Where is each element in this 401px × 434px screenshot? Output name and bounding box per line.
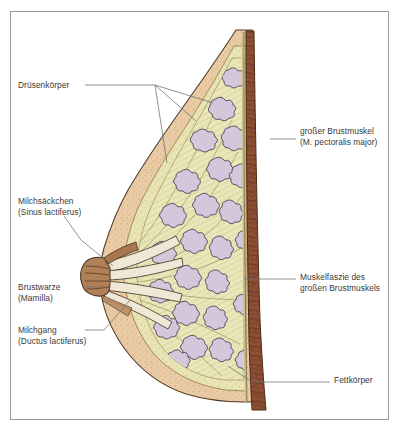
figure-page: Drüsenkörper Milchsäckchen (Sinus lactif… — [0, 0, 401, 434]
label-pectoralis-major: großer Brustmuskel (M. pectoralis major) — [300, 126, 377, 148]
pectoralis-major-muscle — [246, 31, 266, 410]
breast-tissue-group — [81, 30, 266, 412]
label-milk-duct: Milchgang (Ductus lactiferus) — [18, 325, 86, 347]
nipple-mamilla — [81, 257, 110, 296]
label-nipple: Brustwarze (Mamilla) — [18, 282, 60, 304]
label-muscle-fascia: Muskelfaszie des großen Brustmuskels — [300, 272, 380, 294]
label-glandular-body: Drüsenkörper — [18, 80, 69, 91]
label-fat-body: Fettkörper — [334, 375, 373, 386]
label-milk-sinus: Milchsäckchen (Sinus lactiferus) — [18, 196, 81, 218]
